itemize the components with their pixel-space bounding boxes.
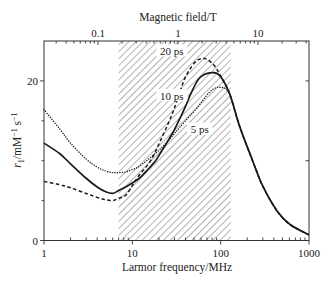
y-axis-exp1: −1	[10, 128, 19, 137]
x-tick-label: 10	[127, 247, 139, 259]
y-axis-exp2: −1	[10, 112, 19, 121]
y-tick-label: 20	[27, 75, 39, 87]
chart-canvas: 20 ps10 ps5 ps 11010010000.1110020 Magne…	[0, 0, 329, 283]
field-tick-label: 0.1	[91, 27, 105, 39]
y-tick-label: 0	[33, 235, 39, 247]
curve-label-10ps: 10 ps	[160, 90, 184, 102]
shaded-region-group	[119, 41, 231, 241]
top-axis-title: Magnetic field/T	[139, 11, 217, 24]
curve-label-20ps: 20 ps	[160, 45, 184, 57]
curve-label-5ps: 5 ps	[191, 123, 209, 135]
field-tick-label: 10	[253, 27, 265, 39]
bottom-axis-title: Larmor frequency/MHz	[122, 261, 232, 274]
field-tick-label: 1	[175, 27, 181, 39]
x-tick-label: 100	[212, 247, 229, 259]
relaxivity-chart: 20 ps10 ps5 ps 11010010000.1110020 Magne…	[0, 0, 329, 283]
x-tick-label: 1	[41, 247, 47, 259]
x-tick-label: 1000	[298, 247, 321, 259]
shaded-region	[119, 41, 231, 241]
y-axis-title: r1/mM−1 s−1	[10, 112, 26, 167]
y-axis-unit: /mM	[11, 137, 23, 159]
